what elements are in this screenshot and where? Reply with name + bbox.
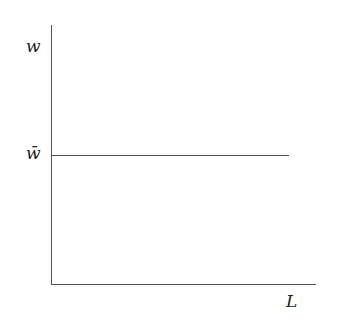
x-axis-label: L bbox=[286, 293, 297, 310]
wbar-line bbox=[52, 155, 289, 156]
y-axis-label: w bbox=[26, 38, 41, 55]
wbar-label: w̄ bbox=[26, 145, 41, 162]
x-axis bbox=[51, 284, 316, 285]
